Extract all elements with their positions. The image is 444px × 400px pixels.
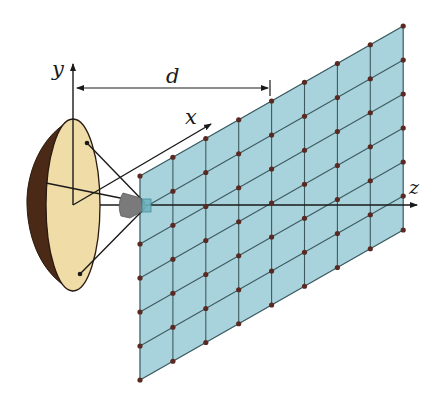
distance-label: d	[166, 64, 179, 88]
grid-sample-point	[401, 227, 406, 232]
grid-sample-point	[203, 136, 208, 141]
grid-sample-point	[269, 268, 274, 273]
grid-sample-point	[170, 359, 175, 364]
z-axis-label: z	[408, 176, 420, 198]
grid-sample-point	[269, 166, 274, 171]
grid-sample-point	[269, 98, 274, 103]
grid-sample-point	[302, 216, 307, 221]
grid-sample-point	[302, 284, 307, 289]
grid-sample-point	[335, 163, 340, 168]
grid-sample-point	[137, 241, 142, 246]
grid-sample-point	[170, 155, 175, 160]
grid-sample-point	[170, 189, 175, 194]
grid-sample-point	[236, 151, 241, 156]
grid-sample-point	[203, 272, 208, 277]
grid-sample-point	[137, 343, 142, 348]
grid-sample-point	[368, 246, 373, 251]
x-axis-label: x	[185, 105, 197, 129]
grid-sample-point	[269, 200, 274, 205]
grid-sample-point	[269, 132, 274, 137]
grid-sample-point	[269, 234, 274, 239]
grid-sample-point	[170, 291, 175, 296]
grid-sample-point	[203, 170, 208, 175]
grid-sample-point	[137, 275, 142, 280]
grid-sample-point	[335, 231, 340, 236]
grid-sample-point	[401, 57, 406, 62]
grid-sample-point	[236, 219, 241, 224]
grid-sample-point	[137, 309, 142, 314]
grid-sample-point	[269, 302, 274, 307]
grid-sample-point	[137, 173, 142, 178]
grid-sample-point	[368, 110, 373, 115]
grid-sample-point	[368, 144, 373, 149]
grid-sample-point	[335, 129, 340, 134]
grid-sample-point	[335, 197, 340, 202]
grid-sample-point	[137, 377, 142, 382]
grid-sample-point	[368, 212, 373, 217]
feed-cube	[142, 199, 151, 212]
grid-sample-point	[335, 265, 340, 270]
grid-sample-point	[401, 23, 406, 28]
grid-sample-point	[236, 253, 241, 258]
grid-sample-point	[335, 95, 340, 100]
antenna-grid-diagram: y d x z	[0, 0, 444, 400]
grid-sample-point	[401, 91, 406, 96]
grid-sample-point	[302, 114, 307, 119]
grid-sample-point	[170, 257, 175, 262]
grid-sample-point	[401, 125, 406, 130]
y-axis-label: y	[51, 57, 65, 81]
grid-sample-point	[236, 321, 241, 326]
grid-sample-point	[368, 42, 373, 47]
grid-sample-point	[302, 148, 307, 153]
ray-point-lower	[78, 272, 83, 277]
grid-sample-point	[302, 182, 307, 187]
grid-sample-point	[203, 306, 208, 311]
grid-sample-point	[368, 178, 373, 183]
grid-sample-point	[203, 204, 208, 209]
grid-sample-point	[236, 287, 241, 292]
grid-sample-point	[335, 61, 340, 66]
grid-sample-point	[236, 185, 241, 190]
grid-sample-point	[401, 193, 406, 198]
grid-sample-point	[170, 223, 175, 228]
grid-sample-point	[203, 340, 208, 345]
grid-sample-point	[368, 76, 373, 81]
ray-point-upper	[85, 141, 90, 146]
grid-sample-point	[203, 238, 208, 243]
grid-sample-point	[302, 250, 307, 255]
grid-sample-point	[236, 117, 241, 122]
grid-sample-point	[401, 159, 406, 164]
grid-sample-point	[302, 80, 307, 85]
grid-sample-point	[170, 325, 175, 330]
